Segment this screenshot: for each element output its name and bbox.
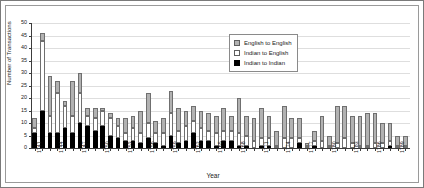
plot-wrapper: Number of Transactions 05101520253035404… [1, 1, 424, 188]
bar-segment-indian_to_indian [184, 141, 189, 149]
bar-segment-indian_to_english [229, 131, 234, 141]
bar-1786 [373, 23, 378, 148]
legend-swatch-english-to-english [234, 40, 240, 46]
bar-1755 [138, 23, 143, 148]
bar-segment-indian_to_english [221, 131, 226, 141]
bar-segment-english_to_english [350, 116, 355, 144]
bar-segment-indian_to_english [32, 128, 37, 133]
bar-segment-english_to_english [335, 106, 340, 144]
bar-segment-english_to_english [259, 108, 264, 138]
x-tick-label: 1753 [128, 141, 133, 153]
bar-segment-english_to_english [123, 118, 128, 133]
x-tick-mark [186, 148, 187, 151]
bar-segment-english_to_english [206, 113, 211, 131]
bar-series-container [31, 23, 409, 148]
x-tick-label: 1765 [218, 141, 223, 153]
bar-segment-english_to_english [244, 116, 249, 136]
bar-1751 [108, 23, 113, 148]
bar-segment-english_to_english [100, 108, 105, 111]
y-tick-label: 10 [21, 120, 27, 125]
x-tick-label: 1747 [82, 141, 87, 153]
bar-segment-indian_to_english [388, 141, 393, 146]
legend-label-indian-to-indian: Indian to Indian [244, 60, 285, 66]
x-tick-label: 1741 [37, 141, 42, 153]
chart-legend: English to English Indian to English Ind… [229, 34, 298, 72]
bar-segment-indian_to_english [123, 133, 128, 141]
bar-segment-indian_to_indian [206, 141, 211, 149]
bar-segment-english_to_english [320, 116, 325, 141]
bar-1742 [40, 23, 45, 148]
x-tick-label: 1771 [264, 141, 269, 153]
bar-segment-indian_to_english [85, 116, 90, 126]
x-tick-mark [390, 148, 391, 151]
bar-segment-indian_to_english [206, 131, 211, 141]
legend-label-indian-to-english: Indian to English [244, 50, 288, 56]
bar-segment-indian_to_indian [229, 141, 234, 149]
bar-segment-english_to_english [78, 73, 83, 93]
bar-1789 [395, 23, 400, 148]
bar-1743 [48, 23, 53, 148]
bar-segment-indian_to_english [191, 121, 196, 134]
bar-segment-indian_to_english [40, 41, 45, 111]
bar-1765 [214, 23, 219, 148]
bar-1788 [388, 23, 393, 148]
bar-segment-indian_to_english [252, 141, 257, 149]
bar-1750 [100, 23, 105, 148]
y-tick-label: 0 [24, 145, 27, 150]
bar-1749 [93, 23, 98, 148]
bar-1776 [297, 23, 302, 148]
bar-segment-english_to_english [40, 33, 45, 41]
bar-segment-english_to_english [131, 116, 136, 129]
x-tick-mark [367, 148, 368, 151]
bar-segment-english_to_english [85, 108, 90, 116]
legend-swatch-indian-to-english [234, 50, 240, 56]
x-axis-ticks: 1741174417471750175317561759176217651768… [31, 148, 409, 174]
bar-segment-indian_to_english [108, 118, 113, 136]
x-tick-mark [383, 148, 384, 151]
x-tick-mark [337, 148, 338, 151]
bar-1790 [403, 23, 408, 148]
bar-segment-english_to_english [191, 106, 196, 121]
x-tick-mark [322, 148, 323, 151]
bar-segment-english_to_english [221, 108, 226, 131]
x-tick-label: 1762 [196, 141, 201, 153]
bar-segment-indian_to_english [70, 116, 75, 134]
x-tick-mark [231, 148, 232, 151]
bar-1757 [153, 23, 158, 148]
bar-segment-indian_to_english [55, 93, 60, 133]
x-tick-mark [156, 148, 157, 151]
y-tick-label: 50 [21, 20, 27, 25]
bar-1780 [327, 23, 332, 148]
x-tick-mark [118, 148, 119, 151]
x-tick-mark [95, 148, 96, 151]
x-tick-label: 1777 [309, 141, 314, 153]
x-tick-label: 1783 [354, 141, 359, 153]
bar-segment-indian_to_english [297, 138, 302, 143]
legend-label-english-to-english: English to English [244, 40, 292, 46]
x-tick-mark [269, 148, 270, 151]
bar-segment-english_to_english [274, 131, 279, 146]
bar-1747 [78, 23, 83, 148]
bar-1744 [55, 23, 60, 148]
bar-segment-indian_to_indian [116, 138, 121, 148]
bar-1778 [312, 23, 317, 148]
bar-segment-english_to_english [267, 116, 272, 139]
x-tick-mark [224, 148, 225, 151]
bar-1748 [85, 23, 90, 148]
x-tick-mark [88, 148, 89, 151]
bar-segment-english_to_english [388, 123, 393, 141]
x-tick-label: 1756 [150, 141, 155, 153]
bar-segment-english_to_english [184, 111, 189, 126]
bar-segment-english_to_english [199, 111, 204, 129]
y-tick-label: 20 [21, 95, 27, 100]
bar-segment-english_to_english [153, 121, 158, 134]
bar-segment-english_to_english [312, 131, 317, 141]
legend-item-indian-to-indian: Indian to Indian [234, 58, 292, 68]
x-tick-label: 1789 [400, 141, 405, 153]
x-tick-mark [133, 148, 134, 151]
bar-segment-english_to_english [169, 91, 174, 114]
x-tick-mark [65, 148, 66, 151]
bar-segment-indian_to_english [78, 93, 83, 123]
bar-segment-english_to_english [373, 113, 378, 143]
x-tick-mark [345, 148, 346, 151]
